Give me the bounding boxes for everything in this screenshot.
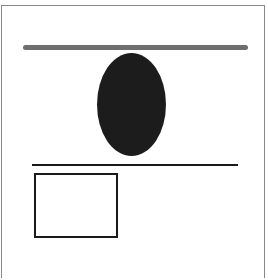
thick-horizontal-line [23,45,248,50]
outlined-rectangle [34,173,118,238]
filled-ellipse [97,53,166,156]
thin-horizontal-line [32,164,238,166]
